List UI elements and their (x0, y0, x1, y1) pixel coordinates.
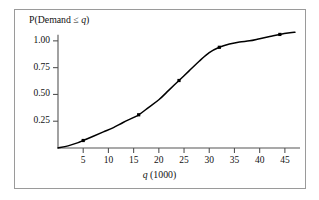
y-axis-label-suffix: ) (86, 14, 89, 25)
x-tick-label: 40 (249, 156, 271, 166)
x-tick-label: 20 (148, 156, 170, 166)
x-axis-label: q (1000) (0, 170, 319, 180)
x-tick-label: 25 (173, 156, 195, 166)
y-tick-label: 1.00 (22, 36, 50, 46)
data-point-marker (82, 139, 85, 142)
y-axis-label-prefix: P(Demand ≤ (29, 14, 81, 25)
y-tick-label: 0.50 (22, 89, 50, 99)
data-point-marker (278, 33, 281, 36)
data-point-markers (82, 33, 282, 142)
axes-group (53, 35, 300, 153)
x-tick-label: 45 (274, 156, 296, 166)
data-point-marker (218, 46, 221, 49)
data-point-marker (177, 79, 180, 82)
curve-group (58, 32, 295, 148)
figure-container: P(Demand ≤ q) q (1000) 0.250.500.751.00 … (0, 0, 319, 200)
x-tick-label: 30 (198, 156, 220, 166)
demand-cdf-curve (58, 32, 295, 148)
y-axis-label: P(Demand ≤ q) (29, 15, 89, 25)
data-point-marker (137, 113, 140, 116)
x-tick-label: 10 (97, 156, 119, 166)
y-tick-label: 0.25 (22, 116, 50, 126)
x-tick-label: 35 (223, 156, 245, 166)
x-axis-label-suffix: (1000) (148, 169, 177, 180)
y-tick-label: 0.75 (22, 63, 50, 73)
x-tick-label: 15 (123, 156, 145, 166)
x-tick-label: 5 (72, 156, 94, 166)
